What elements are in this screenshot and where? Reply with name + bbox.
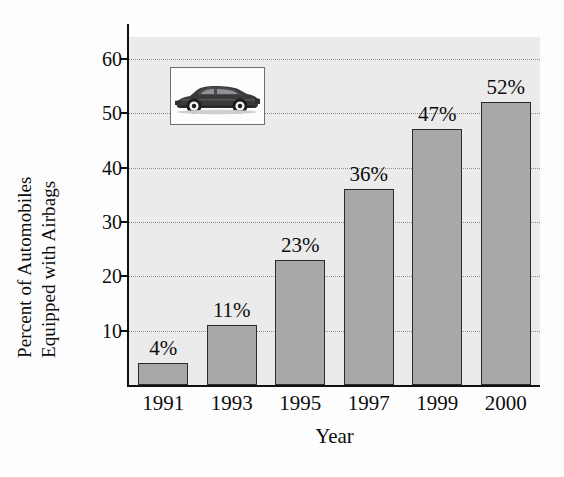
y-tick-label-40: 40	[88, 156, 122, 179]
bar-1991	[138, 363, 188, 385]
x-axis-tick-labels: 199119931995199719992000	[129, 391, 540, 421]
y-axis-title: Percent of Automobiles Equipped with Air…	[14, 60, 76, 360]
bar-value-label-2000: 52%	[471, 75, 541, 100]
y-tick-label-50: 50	[88, 102, 122, 125]
y-tick-label-60: 60	[88, 47, 122, 70]
y-tick-label-30: 30	[88, 210, 122, 233]
y-tick-label-20: 20	[88, 265, 122, 288]
bar-1995	[275, 260, 325, 385]
gridline-20	[129, 276, 540, 277]
car-photo-inset	[170, 67, 265, 125]
bar-2000	[481, 102, 531, 385]
x-tick-label-1993: 1993	[211, 391, 253, 416]
plot-area: 4%11%23%36%47%52%	[129, 37, 540, 385]
x-tick-label-2000: 2000	[485, 391, 527, 416]
gridline-10	[129, 331, 540, 332]
sedan-car-icon	[171, 68, 263, 123]
x-axis-title: Year	[129, 424, 540, 449]
bar-value-label-1999: 47%	[402, 102, 472, 127]
x-tick-label-1991: 1991	[142, 391, 184, 416]
x-tick-label-1997: 1997	[348, 391, 390, 416]
y-tick-label-10: 10	[88, 319, 122, 342]
x-tick-label-1995: 1995	[279, 391, 321, 416]
bar-1993	[207, 325, 257, 385]
x-tick-label-1999: 1999	[416, 391, 458, 416]
bar-chart-figure: Percent of Automobiles Equipped with Air…	[0, 0, 564, 477]
bar-value-label-1997: 36%	[334, 162, 404, 187]
bar-1999	[412, 129, 462, 385]
y-axis-title-line-1: Percent of Automobiles	[14, 176, 36, 358]
bar-value-label-1995: 23%	[265, 233, 335, 258]
y-axis-title-line-2: Equipped with Airbags	[38, 181, 60, 358]
bar-value-label-1993: 11%	[197, 298, 267, 323]
y-axis-tick-labels: 102030405060	[86, 0, 122, 477]
bar-1997	[344, 189, 394, 385]
gridline-30	[129, 222, 540, 223]
bar-value-label-1991: 4%	[128, 336, 198, 361]
gridline-60	[129, 59, 540, 60]
